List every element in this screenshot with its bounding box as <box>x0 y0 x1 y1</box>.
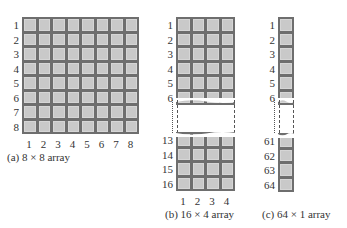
row-label: 62 <box>258 150 275 162</box>
array-cell <box>205 17 221 33</box>
caption-c: (c) 64 × 1 array <box>262 208 331 220</box>
array-cell <box>220 176 236 192</box>
array-cell <box>51 104 67 120</box>
row-label: 2 <box>261 34 275 46</box>
array-cell <box>22 61 38 77</box>
array-cell <box>220 75 236 91</box>
column-label: 1 <box>22 138 36 150</box>
array-cell <box>278 17 294 33</box>
array-cell <box>220 161 236 177</box>
column-label: 5 <box>80 138 94 150</box>
array-cell <box>80 32 96 48</box>
row-label: 2 <box>5 34 19 46</box>
column-label: 6 <box>95 138 109 150</box>
array-cell <box>205 61 221 77</box>
array-cell <box>22 75 38 91</box>
array-cell <box>51 90 67 106</box>
column-label: 2 <box>37 138 51 150</box>
torn-edge <box>176 98 236 104</box>
array-cell <box>109 75 125 91</box>
column-label: 2 <box>191 195 205 207</box>
array-cell <box>205 161 221 177</box>
break-line-left <box>274 100 275 133</box>
array-cell <box>95 104 111 120</box>
torn-edge <box>176 131 236 137</box>
row-label: 16 <box>157 178 173 190</box>
array-cell <box>51 46 67 62</box>
array-cell <box>124 17 140 33</box>
array-cell <box>22 90 38 106</box>
column-label: 4 <box>220 195 234 207</box>
row-label: 3 <box>261 48 275 60</box>
row-label: 61 <box>258 135 275 147</box>
array-cell <box>205 32 221 48</box>
array-cell <box>37 17 53 33</box>
array-cell <box>191 32 207 48</box>
array-cell <box>66 119 82 135</box>
row-label: 15 <box>157 163 173 175</box>
column-label: 8 <box>124 138 138 150</box>
array-cell <box>176 161 192 177</box>
array-cell <box>124 32 140 48</box>
array-cell <box>278 162 294 178</box>
array-cell <box>66 17 82 33</box>
array-cell <box>95 46 111 62</box>
array-cell <box>278 46 294 62</box>
array-cell <box>80 75 96 91</box>
array-cell <box>37 119 53 135</box>
row-label: 6 <box>5 92 19 104</box>
array-cell <box>205 147 221 163</box>
array-cell <box>37 104 53 120</box>
array-cell <box>80 90 96 106</box>
array-cell <box>124 119 140 135</box>
array-cell <box>95 61 111 77</box>
array-cell <box>95 75 111 91</box>
row-label: 3 <box>5 48 19 60</box>
array-cell <box>80 61 96 77</box>
row-label: 3 <box>159 48 173 60</box>
array-cell <box>37 61 53 77</box>
array-cell <box>22 32 38 48</box>
array-cell <box>22 17 38 33</box>
array-cell <box>109 61 125 77</box>
row-label: 1 <box>159 19 173 31</box>
break-line-left-inner <box>279 100 280 133</box>
array-cell <box>124 61 140 77</box>
row-label: 4 <box>261 63 275 75</box>
break-line-right <box>234 100 235 133</box>
array-cell <box>37 90 53 106</box>
row-label: 5 <box>159 77 173 89</box>
array-cell <box>109 17 125 33</box>
array-cell <box>191 46 207 62</box>
array-cell <box>37 46 53 62</box>
row-label: 6 <box>159 92 173 104</box>
array-cell <box>80 104 96 120</box>
torn-edge <box>278 132 295 138</box>
break-line-right <box>293 100 294 133</box>
row-label: 64 <box>258 179 275 191</box>
array-cell <box>80 46 96 62</box>
row-label: 13 <box>157 134 173 146</box>
break-line-left-inner <box>177 100 178 133</box>
array-cell <box>176 75 192 91</box>
array-cell <box>278 177 294 193</box>
array-cell <box>278 32 294 48</box>
array-cell <box>176 17 192 33</box>
array-cell <box>80 119 96 135</box>
row-label: 14 <box>157 149 173 161</box>
array-cell <box>191 17 207 33</box>
array-cell <box>220 147 236 163</box>
column-label: 1 <box>176 195 190 207</box>
break-line-left <box>172 100 173 133</box>
array-cell <box>176 46 192 62</box>
caption-a: (a) 8 × 8 array <box>7 151 70 163</box>
array-cell <box>66 32 82 48</box>
row-label: 2 <box>159 34 173 46</box>
array-cell <box>220 46 236 62</box>
array-cell <box>109 119 125 135</box>
array-cell <box>191 61 207 77</box>
array-cell <box>109 32 125 48</box>
row-label: 63 <box>258 164 275 176</box>
array-cell <box>278 61 294 77</box>
array-cell <box>205 46 221 62</box>
